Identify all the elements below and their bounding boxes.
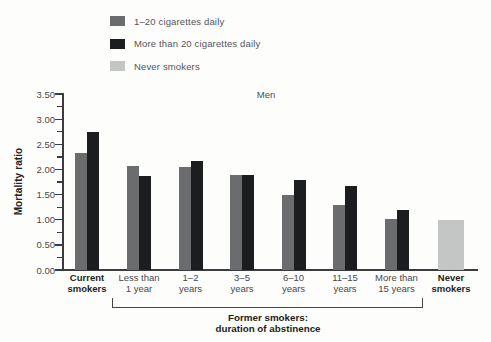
bar-11-15-series1: [345, 186, 357, 270]
y-tick-label: 0.50: [18, 239, 55, 250]
y-minor-tick: [57, 131, 62, 132]
bar-1-2-series1: [191, 161, 203, 270]
legend-swatch-icon: [110, 39, 125, 49]
y-minor-tick: [57, 232, 62, 233]
bar-never-series2: [438, 220, 464, 270]
y-minor-tick: [57, 257, 62, 258]
chart-title: Men: [226, 89, 306, 100]
x-axis-line: [62, 269, 478, 271]
bar-less-than-series1: [139, 176, 151, 270]
bracket-right-tick: [422, 298, 423, 308]
x-category-label-line1: Never: [418, 273, 484, 284]
legend-swatch-icon: [110, 16, 125, 26]
y-major-tick: [55, 244, 62, 245]
x-category-label-line2: smokers: [418, 284, 484, 295]
y-minor-tick: [57, 106, 62, 107]
legend-item-1: More than 20 cigarettes daily: [110, 38, 260, 50]
bar-1-2-series0: [179, 167, 191, 270]
y-tick-label: 3.50: [18, 89, 55, 100]
legend-item-0: 1–20 cigarettes daily: [110, 15, 224, 27]
mortality-ratio-figure: 1–20 cigarettes dailyMore than 20 cigare…: [0, 0, 491, 342]
bar-3-5-series0: [230, 175, 242, 270]
former-smokers-label: Former smokers: duration of abstinence: [148, 312, 388, 335]
bracket-left-tick: [112, 298, 113, 308]
bar-6-10-series0: [282, 195, 294, 270]
y-tick-label: 1.00: [18, 214, 55, 225]
bar-current-series0: [75, 153, 87, 270]
y-major-tick: [55, 144, 62, 145]
y-minor-tick: [57, 181, 62, 182]
legend-label: 1–20 cigarettes daily: [134, 16, 224, 27]
legend-swatch-icon: [110, 61, 125, 71]
bar-6-10-series1: [294, 180, 306, 270]
y-major-tick: [55, 119, 62, 120]
legend-label: Never smokers: [134, 61, 200, 72]
bar-current-series1: [87, 132, 99, 270]
y-tick-label: 3.00: [18, 114, 55, 125]
bracket-line: [112, 307, 423, 308]
bar-more-than-series0: [385, 219, 397, 270]
y-major-tick: [55, 93, 62, 94]
y-minor-tick: [57, 207, 62, 208]
y-major-tick: [55, 194, 62, 195]
bar-less-than-series0: [127, 166, 139, 270]
legend-label: More than 20 cigarettes daily: [134, 38, 260, 49]
y-minor-tick: [57, 156, 62, 157]
y-tick-label: 2.50: [18, 139, 55, 150]
y-tick-label: 2.00: [18, 164, 55, 175]
y-major-tick: [55, 169, 62, 170]
y-major-tick: [55, 219, 62, 220]
legend-item-2: Never smokers: [110, 60, 200, 72]
y-major-tick: [55, 269, 62, 270]
former-smokers-label-line1: Former smokers:: [148, 312, 388, 324]
x-category-label-7: Neversmokers: [418, 273, 484, 294]
y-tick-label: 0.00: [18, 265, 55, 276]
bar-more-than-series1: [397, 210, 409, 270]
y-axis-line: [62, 93, 64, 270]
former-smokers-label-line2: duration of abstinence: [148, 323, 388, 335]
bar-3-5-series1: [242, 175, 254, 270]
y-tick-label: 1.50: [18, 189, 55, 200]
bar-11-15-series0: [333, 205, 345, 270]
